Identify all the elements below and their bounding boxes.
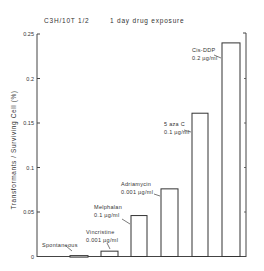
bar-label: 0.001 µg/ml (121, 189, 153, 195)
bar-label: 5 aza C (164, 121, 185, 127)
bar-label: 0.2 µg/ml (192, 55, 217, 61)
bar-label: 0.1 µg/ml (94, 212, 119, 218)
y-tick-label: 0 (31, 254, 34, 260)
y-tick-label: 0.1 (26, 165, 34, 171)
bar (131, 216, 147, 257)
y-axis-label: Transformants / Surviving Cell (%) (10, 90, 18, 209)
bars-group (70, 43, 240, 257)
bar-label: Adriamycin (121, 181, 151, 187)
bar (70, 256, 88, 257)
bar-label: Vincristine (86, 229, 115, 235)
bar (101, 251, 118, 256)
bar-label: Cis-DDP (192, 47, 216, 53)
y-tick-label: 0.25 (23, 31, 34, 37)
y-tick-label: 0.2 (26, 76, 34, 82)
bar-label: 0.1 µg/ml (164, 129, 189, 135)
bar (222, 43, 240, 257)
bar-label: Spontaneous (42, 242, 78, 248)
bar-chart: 00.050.10.150.20.25 SpontaneousVincristi… (0, 0, 264, 271)
y-tick-label: 0.15 (23, 120, 34, 126)
bar-label: Melphalan (94, 204, 122, 210)
bar-label: 0.001 µg/ml (86, 237, 118, 243)
bar (161, 189, 178, 257)
y-tick-label: 0.05 (23, 209, 34, 215)
bar (192, 113, 208, 256)
